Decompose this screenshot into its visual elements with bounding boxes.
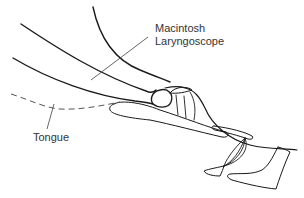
tongue-dashed-outline [11,94,120,109]
tongue-base [110,102,228,137]
scope-label-line2: Laryngoscope [155,35,224,47]
vocal-cords [224,138,246,166]
laryngoscope-diagram: Macintosh Laryngoscope Tongue [0,0,304,198]
cricoid-trachea [228,147,290,189]
laryngoscope-blade-upper [21,24,156,92]
laryngoscope-blade-lower [13,58,153,104]
vallecula-lines [176,92,195,120]
scope-label-line1: Macintosh [155,22,205,34]
epiglottis [170,87,192,93]
laryngoscope-tip [151,90,171,108]
tongue-label: Tongue [33,131,69,143]
thyroid-cartilage [204,166,224,176]
scope-leader-line [91,37,148,80]
